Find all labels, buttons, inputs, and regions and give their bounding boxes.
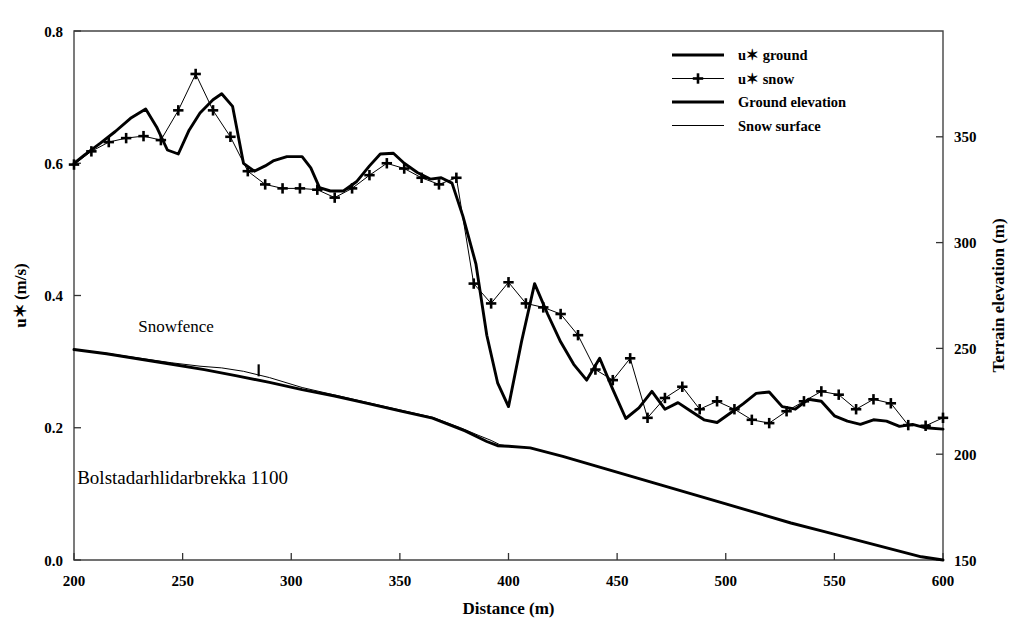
data-point-marker [625, 353, 635, 363]
legend: u✶ groundu✶ snowGround elevationSnow sur… [672, 47, 846, 134]
data-point-marker [225, 132, 235, 142]
y-tick-label-left-0.4: 0.4 [44, 288, 63, 304]
data-point-marker [434, 179, 444, 189]
series-ground-elevation [74, 350, 943, 561]
data-point-marker [712, 396, 722, 406]
y-tick-label-left-0.2: 0.2 [44, 420, 63, 436]
data-point-marker [903, 420, 913, 430]
data-point-marker [747, 415, 757, 425]
y-tick-label-right-250: 250 [954, 341, 977, 357]
y-tick-label-right-300: 300 [954, 235, 977, 251]
data-point-marker [693, 73, 703, 83]
x-tick-label-200: 200 [63, 573, 86, 589]
series-u-ground [74, 94, 943, 429]
data-point-marker [312, 185, 322, 195]
y-tick-label-right-200: 200 [954, 447, 977, 463]
x-tick-label-250: 250 [171, 573, 194, 589]
data-point-marker [260, 179, 270, 189]
x-axis-title: Distance (m) [462, 599, 554, 618]
legend-label-ground-elevation: Ground elevation [738, 94, 846, 110]
x-tick-label-350: 350 [389, 573, 412, 589]
y-tick-label-left-0.6: 0.6 [44, 156, 63, 172]
y-axis-title-left: u✶ (m/s) [11, 263, 30, 328]
x-tick-label-450: 450 [606, 573, 629, 589]
y-tick-label-left-0.8: 0.8 [44, 24, 63, 40]
x-tick-label-600: 600 [932, 573, 955, 589]
annotation-bolstadarhlidarbrekka-1100: Bolstadarhlidarbrekka 1100 [77, 467, 288, 488]
y-axis-title-right: Terrain elevation (m) [989, 218, 1008, 372]
chart-svg: 2002503003504004505005506000.00.20.40.60… [0, 0, 1023, 636]
series-line [74, 350, 530, 448]
x-tick-label-500: 500 [715, 573, 738, 589]
legend-label-u-snow: u✶ snow [738, 71, 795, 87]
series-line [74, 94, 943, 429]
data-point-marker [764, 418, 774, 428]
data-point-marker [173, 105, 183, 115]
x-tick-label-400: 400 [497, 573, 520, 589]
x-tick-label-550: 550 [823, 573, 846, 589]
y-tick-label-right-150: 150 [954, 553, 977, 569]
series-line [74, 350, 943, 561]
legend-label-u-ground: u✶ ground [738, 47, 808, 63]
data-point-marker [295, 183, 305, 193]
data-point-marker [868, 394, 878, 404]
data-point-marker [330, 192, 340, 202]
data-point-marker [277, 183, 287, 193]
data-point-marker [208, 105, 218, 115]
x-tick-label-300: 300 [280, 573, 303, 589]
data-point-marker [677, 382, 687, 392]
data-point-marker [938, 413, 948, 423]
data-point-marker [555, 309, 565, 319]
data-point-marker [347, 183, 357, 193]
data-point-marker [816, 386, 826, 396]
legend-label-snow-surface: Snow surface [738, 118, 821, 134]
data-point-marker [451, 173, 461, 183]
series-snow-surface [74, 350, 530, 448]
y-tick-label-left-0.0: 0.0 [44, 553, 63, 569]
data-point-marker [382, 158, 392, 168]
data-point-marker [138, 131, 148, 141]
y-tick-label-right-350: 350 [954, 129, 977, 145]
data-point-marker [190, 69, 200, 79]
figure-container: 2002503003504004505005506000.00.20.40.60… [0, 0, 1023, 636]
data-point-marker [121, 133, 131, 143]
data-point-marker [886, 398, 896, 408]
annotation-snowfence: Snowfence [138, 317, 214, 336]
data-point-marker [503, 277, 513, 287]
